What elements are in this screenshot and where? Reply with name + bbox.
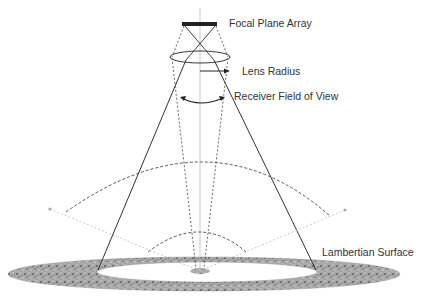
lens-radius-label: Lens Radius <box>242 65 300 77</box>
focal-plane-array-label: Focal Plane Array <box>229 17 312 29</box>
inner-hemisphere-arc <box>148 232 246 252</box>
lambertian-surface-label: Lambertian Surface <box>322 246 414 258</box>
lens-radius-arrow <box>200 69 230 74</box>
fov-left-line <box>98 60 186 270</box>
lambertian-surface <box>8 257 400 291</box>
fov-arc <box>180 96 225 103</box>
receiver-fov-label: Receiver Field of View <box>234 90 338 102</box>
outer-hemisphere-arc <box>66 162 330 216</box>
focal-plane-array <box>182 22 217 26</box>
